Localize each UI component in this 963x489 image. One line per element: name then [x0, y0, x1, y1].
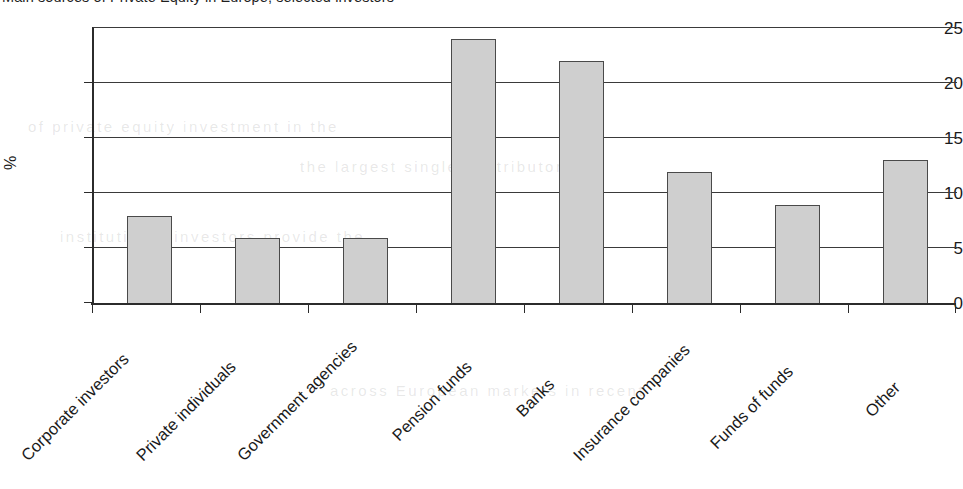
- x-tick-mark-1: [200, 304, 201, 313]
- gridline-5: [94, 247, 957, 248]
- x-tick-mark-4: [524, 304, 525, 313]
- bar-pension-funds[interactable]: [451, 39, 496, 304]
- plot-area: [92, 27, 957, 304]
- bar-insurance-companies[interactable]: [667, 172, 712, 304]
- chart-title-strip: Main sources of Private Equity in Europe…: [0, 0, 963, 7]
- x-tick-mark-5: [632, 304, 633, 313]
- x-tick-mark-3: [416, 304, 417, 313]
- x-tick-mark-7: [848, 304, 849, 313]
- bar-government-agencies[interactable]: [343, 238, 388, 304]
- x-axis-label-corporate-investors: Corporate investors: [18, 350, 132, 464]
- gridline-20: [94, 82, 957, 83]
- x-axis-label-funds-of-funds: Funds of funds: [707, 363, 796, 452]
- x-axis-label-banks: Banks: [513, 376, 557, 420]
- bar-corporate-investors[interactable]: [127, 216, 172, 304]
- x-axis-label-government-agencies: Government agencies: [234, 338, 360, 464]
- bar-banks[interactable]: [559, 61, 604, 304]
- x-axis-label-other: Other: [862, 379, 903, 420]
- bar-private-individuals[interactable]: [235, 238, 280, 304]
- y-axis-title: %: [2, 156, 20, 170]
- page-bleed-text: across European markets in recent: [330, 382, 645, 399]
- gridline-10: [94, 192, 957, 193]
- x-axis-label-private-individuals: Private individuals: [133, 358, 239, 464]
- gridline-15: [94, 137, 957, 138]
- x-axis-label-pension-funds: Pension funds: [389, 358, 475, 444]
- chart-title: Main sources of Private Equity in Europe…: [0, 0, 963, 7]
- x-tick-mark-0: [92, 304, 93, 313]
- x-tick-mark-2: [308, 304, 309, 313]
- x-tick-mark-6: [740, 304, 741, 313]
- x-axis-label-insurance-companies: Insurance companies: [570, 341, 693, 464]
- x-tick-mark-8: [955, 304, 956, 313]
- bar-funds-of-funds[interactable]: [775, 205, 820, 304]
- bar-chart-figure: of private equity investment in the the …: [0, 0, 963, 489]
- bar-other[interactable]: [883, 160, 928, 304]
